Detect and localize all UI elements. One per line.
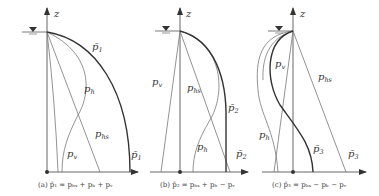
pressure-distribution-diagram: z p̄1 ph phs pv p̄1 (a) p̄₁ = pₕₛ + pₕ +… [0, 0, 379, 196]
curve-pv [274, 31, 293, 172]
label-pv: pv [152, 76, 162, 89]
label-p3-bottom: p̄3 [348, 148, 359, 161]
panel-c: z pv phs ph p̄3 p̄3 (c) p̄₃ = pₕₛ − pₕ −… [257, 8, 366, 189]
origin-dot [45, 170, 49, 174]
origin-dot [291, 170, 295, 174]
label-p2: p̄2 [228, 102, 239, 115]
label-ph: ph [197, 141, 208, 154]
label-pv: pv [275, 58, 285, 71]
z-axis-label: z [185, 8, 192, 19]
label-p3: p̄3 [313, 143, 324, 156]
z-axis-label: z [53, 8, 60, 19]
label-pv: pv [67, 148, 77, 161]
curve-ph-inner [263, 31, 293, 80]
caption-a: (a) p̄₁ = pₕₛ + pₕ + pᵥ [38, 181, 113, 189]
label-p2-bottom: p̄2 [236, 148, 247, 161]
curve-pv [161, 31, 180, 172]
label-p1-bottom: p̄1 [131, 149, 142, 162]
panel-b: z pv phs p̄2 ph p̄2 (b) p̄₂ = pₕₛ + pₕ −… [150, 8, 248, 189]
label-phs: phs [187, 82, 202, 95]
label-phs: phs [95, 128, 110, 141]
z-axis-label: z [299, 8, 306, 19]
label-phs: phs [318, 71, 333, 84]
water-surface-icon [155, 26, 180, 33]
curve-pv [47, 32, 58, 172]
curve-phs [47, 32, 100, 172]
label-p1: p̄1 [92, 41, 103, 54]
curve-p1-total [47, 32, 130, 172]
panel-a: z p̄1 ph phs pv p̄1 (a) p̄₁ = pₕₛ + pₕ +… [22, 8, 142, 189]
caption-b: (b) p̄₂ = pₕₛ + pₕ − pᵥ [160, 181, 235, 189]
curve-ph [257, 31, 293, 172]
caption-c: (c) p̄₃ = pₕₛ − pₕ − pᵥ [272, 181, 347, 189]
water-surface-icon [22, 27, 47, 34]
label-ph: ph [259, 129, 270, 142]
origin-dot [178, 170, 182, 174]
